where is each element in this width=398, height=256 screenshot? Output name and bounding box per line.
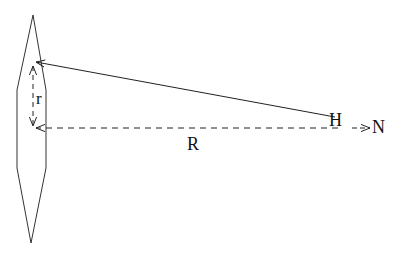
diagram-canvas: r H N R: [0, 0, 398, 256]
label-H: H: [329, 110, 342, 130]
lens-shape: [17, 15, 46, 243]
label-r: r: [36, 89, 42, 108]
solid-ray-line: [36, 62, 335, 117]
label-R: R: [187, 134, 199, 154]
label-N: N: [372, 117, 385, 137]
